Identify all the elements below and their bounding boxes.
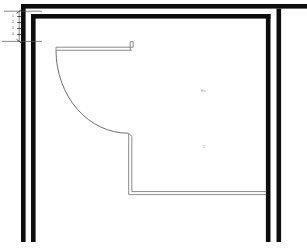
room-tag-lower: 2	[203, 144, 205, 149]
dimension-note-2: 2	[12, 21, 14, 25]
wall-inner-top	[31, 14, 271, 19]
wall-group-outer	[21, 4, 307, 242]
wall-outer-right	[277, 9, 282, 242]
wall-outer-left	[21, 4, 26, 242]
wall-inner-left	[31, 14, 36, 242]
floor-plan-drawing	[0, 0, 307, 248]
dimension-note-3: 3	[12, 27, 14, 31]
wall-outer-top	[21, 4, 307, 9]
dimension-note-1: 1	[12, 15, 14, 19]
wall-inner-right	[266, 14, 271, 242]
door-swing-arc	[56, 51, 129, 134]
room-tag-upper: Ex	[201, 88, 206, 93]
floor-plan-canvas: Ex 2 1 2 3 4	[0, 0, 307, 248]
dimension-note-4: 4	[12, 33, 14, 37]
interior-partition-group	[56, 42, 266, 195]
wall-group-inner	[31, 14, 271, 242]
